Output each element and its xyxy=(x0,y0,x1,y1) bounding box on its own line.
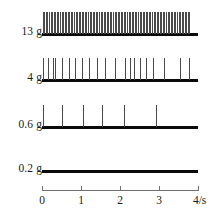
spike-mark xyxy=(146,58,147,80)
spike-mark xyxy=(48,58,49,80)
trace-row: 13 g xyxy=(0,3,216,37)
axis-tick-mark xyxy=(42,186,43,191)
trace-plot xyxy=(42,96,198,130)
trace-row: 0.2 g xyxy=(0,140,216,174)
spike-mark xyxy=(130,58,131,80)
spike-mark xyxy=(55,58,56,80)
x-axis: 01234/s xyxy=(42,190,198,191)
spike-mark xyxy=(89,58,90,80)
spike-train-raster-figure: 13 g4 g0.6 g0.2 g 01234/s xyxy=(0,0,216,214)
axis-tick-label: 0 xyxy=(39,194,45,206)
trace-plot xyxy=(42,49,198,83)
spike-mark xyxy=(125,58,126,80)
trace-plot xyxy=(42,3,198,37)
spike-mark xyxy=(189,12,190,34)
trace-row: 4 g xyxy=(0,49,216,83)
spike-mark xyxy=(53,58,54,80)
spike-mark xyxy=(115,58,116,80)
trace-label-0-6-g: 0.6 g xyxy=(19,118,43,130)
spike-mark xyxy=(180,58,181,80)
axis-tick-mark xyxy=(198,186,199,191)
trace-baseline xyxy=(42,170,198,173)
spike-mark xyxy=(105,58,106,80)
spike-mark xyxy=(83,105,84,127)
axis-tick-mark xyxy=(159,186,160,191)
spike-mark xyxy=(124,105,125,127)
trace-baseline xyxy=(42,126,198,129)
spike-mark xyxy=(97,58,98,80)
spike-mark xyxy=(153,58,154,80)
axis-tick-label: 3 xyxy=(156,194,162,206)
trace-label-0-2-g: 0.2 g xyxy=(19,162,43,174)
axis-tick-mark xyxy=(120,186,121,191)
trace-label-13-g: 13 g xyxy=(21,25,42,37)
trace-label-4-g: 4 g xyxy=(27,71,42,83)
spike-mark xyxy=(62,105,63,127)
trace-baseline xyxy=(42,79,198,82)
spike-mark xyxy=(134,58,135,80)
spike-mark xyxy=(82,58,83,80)
spike-mark xyxy=(62,58,63,80)
spike-mark xyxy=(43,105,44,127)
spike-mark xyxy=(43,58,44,80)
axis-tick-mark xyxy=(81,186,82,191)
spike-mark xyxy=(69,58,70,80)
trace-row: 0.6 g xyxy=(0,96,216,130)
axis-tick-label: 4/s xyxy=(193,194,206,206)
axis-tick-label: 2 xyxy=(117,194,123,206)
spike-mark xyxy=(102,105,103,127)
spike-mark xyxy=(75,58,76,80)
axis-tick-label: 1 xyxy=(78,194,84,206)
spike-mark xyxy=(140,58,141,80)
spike-mark xyxy=(189,58,190,80)
spike-mark xyxy=(156,105,157,127)
trace-plot xyxy=(42,140,198,174)
spike-mark xyxy=(164,58,165,80)
